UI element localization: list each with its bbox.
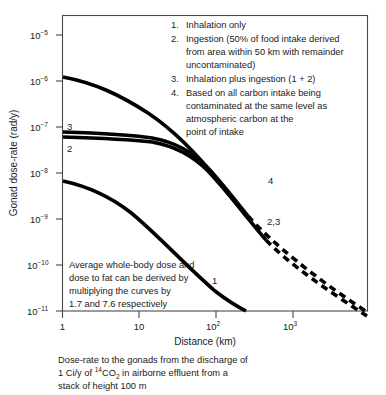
y-tick-label: 10−10 [27, 259, 49, 271]
annotation-line: multiplying the curves by [69, 286, 171, 296]
caption-line: stack of height 100 m [58, 381, 147, 391]
annotation-line: dose to fat can be derived by [69, 273, 189, 283]
x-axis-tick-labels: 1 10 102 103 [60, 320, 298, 332]
legend-item-text: Inhalation plus ingestion (1 + 2) [186, 74, 315, 84]
x-tick-label: 103 [283, 320, 298, 332]
x-tick-label: 10 [134, 321, 145, 332]
legend-item-text: from area within 50 km with remainder [186, 47, 344, 57]
y-tick-label: 10−5 [30, 29, 48, 41]
legend-item-number: 2. [171, 34, 179, 44]
curve-2-solid [63, 137, 248, 218]
curve-4-dashed [266, 240, 367, 316]
figure-container: 10−5 10−6 10−7 10−8 10−9 10−10 10−11 Gon… [0, 0, 386, 395]
legend-item-text: Ingestion (50% of food intake derived [186, 34, 340, 44]
y-tick-label: 10−9 [30, 213, 48, 225]
legend-item-number: 3. [171, 74, 179, 84]
curve-label-1: 1 [212, 275, 217, 286]
curve-3-dashed [248, 216, 367, 312]
curve-label-2-3: 2,3 [267, 216, 280, 227]
x-axis-title: Distance (km) [174, 336, 236, 347]
caption-line: 1 Ci/y of 14CO2 in airborne effluent fro… [58, 366, 229, 380]
caption-line: Dose-rate to the gonads from the dischar… [58, 355, 248, 365]
figure-caption: Dose-rate to the gonads from the dischar… [58, 355, 248, 391]
x-axis-ticks [63, 311, 294, 318]
y-tick-label: 10−8 [30, 167, 48, 179]
y-tick-label: 10−7 [30, 121, 48, 133]
x-tick-label: 102 [206, 320, 221, 332]
chart-legend: 1. Inhalation only 2. Ingestion (50% of … [171, 20, 344, 137]
y-axis-title: Gonad dose-rate (rad/y) [8, 110, 19, 217]
chart-canvas: 10−5 10−6 10−7 10−8 10−9 10−10 10−11 Gon… [0, 0, 386, 395]
curve-3-solid [63, 132, 248, 216]
y-axis-ticks [56, 35, 63, 311]
y-tick-label: 10−6 [30, 75, 48, 87]
annotation-line: Average whole-body dose and [69, 260, 194, 270]
series-curve-2 [63, 137, 248, 218]
legend-item-text: Inhalation only [186, 20, 246, 30]
curve-label-2-axis: 2 [67, 143, 72, 154]
annotation-line: 1.7 and 7.6 respectively [69, 299, 168, 309]
legend-item-number: 1. [171, 20, 179, 30]
curve-label-4: 4 [268, 175, 273, 186]
chart-annotation-note: Average whole-body dose and dose to fat … [69, 260, 194, 309]
curve-label-3-axis: 3 [67, 121, 72, 132]
legend-item-text: atmospheric carbon at the [186, 114, 294, 124]
legend-item-text: contaminated at the same level as [186, 101, 327, 111]
legend-item-text: uncontaminated) [186, 60, 255, 70]
y-tick-label: 10−11 [27, 305, 49, 317]
legend-item-text: point of intake [186, 127, 244, 137]
legend-item-text: Based on all carbon intake being [186, 88, 321, 98]
y-axis-tick-labels: 10−5 10−6 10−7 10−8 10−9 10−10 10−11 [27, 29, 49, 317]
x-tick-label: 1 [60, 321, 65, 332]
legend-item-number: 4. [171, 88, 179, 98]
